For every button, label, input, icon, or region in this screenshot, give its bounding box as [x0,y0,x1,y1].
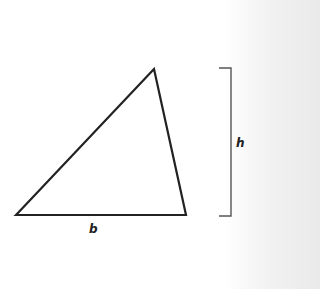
base-label: b [89,222,98,236]
height-label: h [236,136,245,150]
triangle-diagram [0,0,266,289]
triangle-shape [16,69,186,215]
height-bracket [219,68,231,216]
